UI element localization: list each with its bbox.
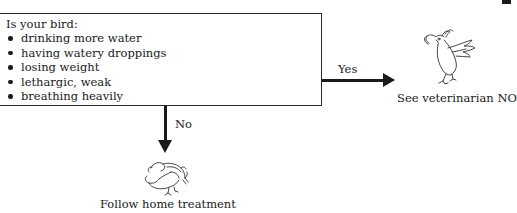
symptom-item: drinking more water bbox=[7, 31, 167, 46]
no-arrow-line bbox=[164, 106, 167, 142]
corner-mark bbox=[502, 0, 511, 4]
home-outcome-label: Follow home treatment bbox=[100, 197, 230, 211]
vet-outcome-label: See veterinarian NOW bbox=[397, 91, 517, 105]
yes-arrowhead-icon bbox=[383, 73, 395, 87]
alarmed-bird-icon bbox=[420, 28, 478, 88]
bullet-icon bbox=[8, 51, 13, 56]
no-label: No bbox=[175, 117, 192, 131]
symptom-item: losing weight bbox=[7, 60, 167, 75]
question-box: Is your bird: drinking more water having… bbox=[0, 13, 322, 106]
bullet-icon bbox=[8, 65, 13, 70]
no-arrowhead-icon bbox=[158, 140, 172, 153]
question-title: Is your bird: bbox=[6, 17, 78, 31]
bullet-icon bbox=[8, 80, 13, 85]
bullet-icon bbox=[8, 94, 13, 99]
symptom-list: drinking more water having watery droppi… bbox=[7, 31, 167, 104]
bullet-icon bbox=[8, 36, 13, 41]
yes-label: Yes bbox=[338, 62, 357, 76]
yes-arrow-line bbox=[322, 79, 386, 82]
symptom-item: lethargic, weak bbox=[7, 75, 167, 90]
resting-bird-icon bbox=[141, 158, 191, 198]
symptom-item: having watery droppings bbox=[7, 46, 167, 61]
symptom-item: breathing heavily bbox=[7, 89, 167, 104]
